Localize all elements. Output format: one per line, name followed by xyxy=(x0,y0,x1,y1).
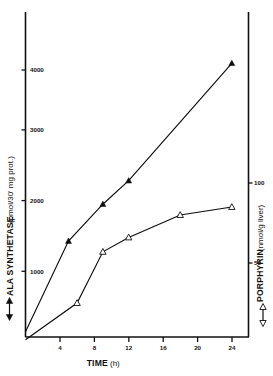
open-triangle-icon xyxy=(260,304,266,310)
open-triangle-marker xyxy=(229,204,235,210)
chart-figure: 1000 2000 3000 4000 50 100 4 8 12 16 xyxy=(0,0,273,376)
filled-triangle-icon xyxy=(6,315,12,321)
left-axis-tick-labels: 1000 2000 3000 4000 xyxy=(30,66,44,274)
legend-ala-synthetase xyxy=(6,298,12,321)
left-ticklabel-4000: 4000 xyxy=(30,66,44,73)
right-axis-title: PORPHYRIN (nmol/g liver) xyxy=(255,204,265,302)
chart-plot-area: 1000 2000 3000 4000 50 100 4 8 12 16 xyxy=(0,0,273,376)
x-ticklabel-4: 4 xyxy=(58,344,62,351)
series-ala-synthetase-line xyxy=(26,63,232,331)
open-triangle-marker xyxy=(100,249,106,255)
x-ticklabel-20: 20 xyxy=(194,344,201,351)
x-axis-title: TIME (h) xyxy=(87,358,120,368)
series-porphyrin xyxy=(26,204,236,340)
x-ticklabel-8: 8 xyxy=(93,344,97,351)
filled-triangle-marker xyxy=(229,60,235,65)
legend-porphyrin xyxy=(260,304,266,327)
left-axis-title-unit: (pmol/30' mg prot.) xyxy=(6,156,15,223)
left-ticklabel-2000: 2000 xyxy=(30,197,44,204)
x-ticklabel-24: 24 xyxy=(229,344,236,351)
series-ala-synthetase xyxy=(26,60,235,332)
x-axis-title-main: TIME xyxy=(87,358,108,368)
right-axis-title-unit: (nmol/g liver) xyxy=(256,204,265,251)
right-axis-title-main: PORPHYRIN xyxy=(255,249,265,302)
open-triangle-icon xyxy=(260,321,266,327)
left-axis-title: ALA SYNTHETASE (pmol/30' mg prot.) xyxy=(5,156,15,296)
x-ticklabel-16: 16 xyxy=(160,344,167,351)
x-axis-title-unit: (h) xyxy=(110,359,120,368)
series-porphyrin-markers xyxy=(74,204,235,306)
open-triangle-marker xyxy=(74,300,80,306)
left-axis-title-main: ALA SYNTHETASE xyxy=(5,216,15,296)
left-ticklabel-1000: 1000 xyxy=(30,268,44,275)
left-ticklabel-3000: 3000 xyxy=(30,126,44,133)
right-ticklabel-100: 100 xyxy=(254,179,265,186)
x-axis-tick-labels: 4 8 12 16 20 24 xyxy=(58,344,236,351)
series-ala-synthetase-markers xyxy=(65,60,234,243)
x-ticklabel-12: 12 xyxy=(125,344,132,351)
filled-triangle-icon xyxy=(6,298,12,304)
series-porphyrin-line xyxy=(26,207,232,340)
